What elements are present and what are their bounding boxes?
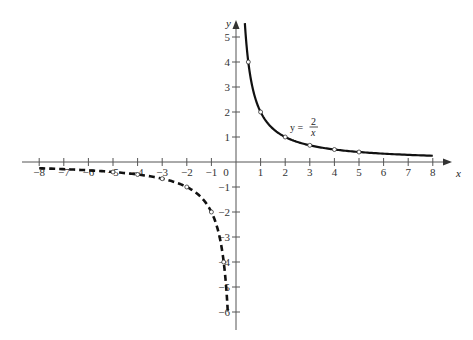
y-tick-label: 4 <box>225 56 231 68</box>
x-axis-label: x <box>455 167 461 179</box>
x-tick-label: 3 <box>307 166 313 178</box>
curve-negative-branch <box>39 168 228 313</box>
x-tick-label: 8 <box>430 166 436 178</box>
equation-denominator: x <box>310 127 316 138</box>
data-point <box>111 170 115 174</box>
x-tick-label: 7 <box>405 166 411 178</box>
data-point <box>332 148 336 152</box>
x-tick-label: −6 <box>83 166 95 178</box>
data-point <box>246 60 250 64</box>
x-tick-label: −2 <box>181 166 193 178</box>
y-tick-label: −2 <box>218 206 230 218</box>
x-tick-label: 4 <box>332 166 338 178</box>
y-tick-label: 2 <box>225 106 231 118</box>
x-tick-label: 1 <box>258 166 264 178</box>
y-tick-label: 1 <box>225 131 231 143</box>
x-axis-arrow-icon <box>443 159 452 166</box>
data-point <box>259 110 263 114</box>
x-tick-label: 6 <box>381 166 387 178</box>
curve-positive-branch <box>245 23 433 156</box>
x-tick-label: −3 <box>156 166 168 178</box>
y-tick-label: 3 <box>225 81 231 93</box>
data-point <box>222 260 226 264</box>
y-axis-arrow-icon <box>233 20 240 29</box>
y-tick-label: 5 <box>225 31 231 43</box>
data-point <box>283 135 287 139</box>
x-tick-label: 2 <box>282 166 288 178</box>
x-tick-label: 0 <box>223 166 229 178</box>
x-tick-label: 5 <box>356 166 362 178</box>
y-tick-label: −5 <box>218 281 230 293</box>
equation-annotation: y = 2 x <box>290 116 318 138</box>
data-point <box>357 150 361 154</box>
data-point <box>185 185 189 189</box>
data-point <box>136 173 140 177</box>
data-point <box>209 210 213 214</box>
y-axis-label: y <box>225 17 231 29</box>
equation-lhs: y = <box>290 122 304 133</box>
equation-numerator: 2 <box>311 116 316 127</box>
data-point <box>160 177 164 181</box>
function-graph: −8−7−6−5−4−3−2−1012345678−6−5−4−3−2−1123… <box>0 0 473 340</box>
data-point <box>308 143 312 147</box>
x-tick-label: −1 <box>206 166 218 178</box>
y-tick-label: −1 <box>218 181 230 193</box>
tick-labels: −8−7−6−5−4−3−2−1012345678−6−5−4−3−2−1123… <box>33 31 436 318</box>
